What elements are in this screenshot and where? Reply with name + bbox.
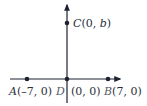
label-d-letter-box: D bbox=[56, 86, 65, 97]
point-b bbox=[106, 77, 111, 82]
label-b: B(7, 0) bbox=[104, 86, 142, 97]
point-c bbox=[65, 21, 70, 26]
label-c-var: b bbox=[100, 17, 107, 30]
label-c-coords-prefix: (0, bbox=[81, 17, 99, 30]
label-a-coords: (–7, 0) bbox=[17, 85, 52, 98]
point-a bbox=[25, 77, 30, 82]
label-c: C(0, b) bbox=[73, 18, 111, 29]
label-c-coords-suffix: ) bbox=[107, 17, 111, 30]
label-b-coords: (7, 0) bbox=[112, 85, 142, 98]
label-d-letter: D bbox=[56, 85, 65, 98]
label-d-coords: (0, 0) bbox=[71, 85, 101, 98]
label-d-coords-box: (0, 0) bbox=[71, 86, 101, 97]
label-a: A(–7, 0) bbox=[9, 86, 52, 97]
label-b-letter: B bbox=[104, 85, 112, 98]
label-a-letter: A bbox=[9, 85, 17, 98]
point-d bbox=[65, 77, 70, 82]
